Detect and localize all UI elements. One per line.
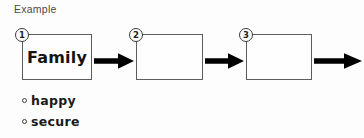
answer-label: secure xyxy=(31,114,80,129)
step-box-1[interactable]: Family xyxy=(22,34,92,80)
step-box-2[interactable] xyxy=(136,34,203,80)
example-heading: Example xyxy=(14,3,57,15)
answer-label: happy xyxy=(31,93,76,108)
step-marker-1: 1 xyxy=(15,28,29,42)
step-marker-3: 3 xyxy=(239,28,253,42)
step-box-3[interactable] xyxy=(246,34,312,80)
flow-arrow-2-icon xyxy=(203,50,246,72)
step-marker-2: 2 xyxy=(129,28,143,42)
hollow-circle-bullet-icon xyxy=(22,119,27,124)
list-item[interactable]: happy xyxy=(22,90,80,110)
flow-arrow-1-icon xyxy=(92,50,136,72)
hollow-circle-bullet-icon xyxy=(22,98,27,103)
step-box-1-text: Family xyxy=(23,48,91,67)
worksheet-diagram: Example Family 1 2 3 happy secure xyxy=(0,0,364,138)
answer-list: happy secure xyxy=(22,90,80,132)
flow-arrow-3-icon xyxy=(312,50,364,72)
list-item[interactable]: secure xyxy=(22,111,80,131)
